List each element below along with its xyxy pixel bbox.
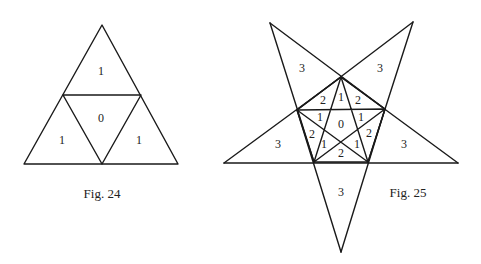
region-label-inner-left-lower: 1 xyxy=(321,137,327,151)
region-label-inner-left-upper: 1 xyxy=(317,110,323,124)
region-label-inner-top: 1 xyxy=(338,90,344,104)
region-label-inner-bottom: 2 xyxy=(338,146,344,160)
region-label-inner-right-upper: 1 xyxy=(358,110,364,124)
region-label-inner-top-left: 2 xyxy=(320,93,326,107)
region-label-center: 0 xyxy=(338,117,344,131)
figures-canvas: 1 0 1 1 Fig. 24 3 3 3 3 3 2 1 2 1 0 1 2 xyxy=(0,0,481,264)
region-label-top: 1 xyxy=(98,64,104,78)
inner-triangle xyxy=(63,95,141,164)
figure-25: 3 3 3 3 3 2 1 2 1 0 1 2 2 1 1 2 Fig. 25 xyxy=(224,22,458,252)
figure-caption: Fig. 24 xyxy=(84,186,121,201)
region-label-outer-top-left: 3 xyxy=(299,61,305,75)
region-label-outer-bottom: 3 xyxy=(338,185,344,199)
region-label-inner-top-right: 2 xyxy=(355,93,361,107)
region-label-inner-left: 2 xyxy=(309,127,315,141)
region-label-bottom-left: 1 xyxy=(59,133,65,147)
region-label-bottom-right: 1 xyxy=(136,133,142,147)
region-label-outer-left: 3 xyxy=(275,137,281,151)
region-label-outer-top-right: 3 xyxy=(377,61,383,75)
region-label-inner-right-lower: 1 xyxy=(354,137,360,151)
figure-caption: Fig. 25 xyxy=(390,185,427,200)
region-label-center: 0 xyxy=(98,111,104,125)
region-label-inner-right: 2 xyxy=(366,126,372,140)
figure-24: 1 0 1 1 Fig. 24 xyxy=(24,25,178,201)
region-label-outer-right: 3 xyxy=(401,137,407,151)
